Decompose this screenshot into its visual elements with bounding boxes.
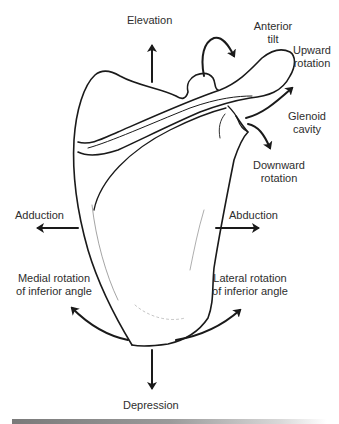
label-upward-rotation-line1: Upward [285,44,339,57]
lateral-rotation-arrow [176,310,240,340]
label-anterior-tilt-line1: Anterior [248,20,298,33]
label-elevation: Elevation [127,14,172,27]
label-glenoid-cavity-line1: Glenoid [282,110,332,123]
label-downward-rotation: Downward rotation [246,159,312,185]
label-adduction: Adduction [15,209,64,222]
label-abduction: Abduction [229,209,278,222]
label-glenoid-cavity-line2: cavity [282,123,332,136]
label-lateral-rotation-line2: of inferior angle [206,285,294,298]
scapula-outline [74,50,295,346]
anterior-tilt-arrow [202,38,234,76]
label-depression: Depression [123,399,179,412]
label-upward-rotation-line2: rotation [285,57,339,70]
label-medial-rotation-line1: Medial rotation [10,272,98,285]
bottom-divider-bar [12,419,327,424]
label-upward-rotation: Upward rotation [285,44,339,70]
label-downward-rotation-line2: rotation [246,172,312,185]
label-glenoid-cavity: Glenoid cavity [282,110,332,136]
label-lateral-rotation-line1: Lateral rotation [206,272,294,285]
label-downward-rotation-line1: Downward [246,159,312,172]
label-medial-rotation: Medial rotation of inferior angle [10,272,98,298]
label-medial-rotation-line2: of inferior angle [10,285,98,298]
label-lateral-rotation: Lateral rotation of inferior angle [206,272,294,298]
label-anterior-tilt: Anterior tilt [248,20,298,46]
downward-rotation-arrow [248,124,270,148]
